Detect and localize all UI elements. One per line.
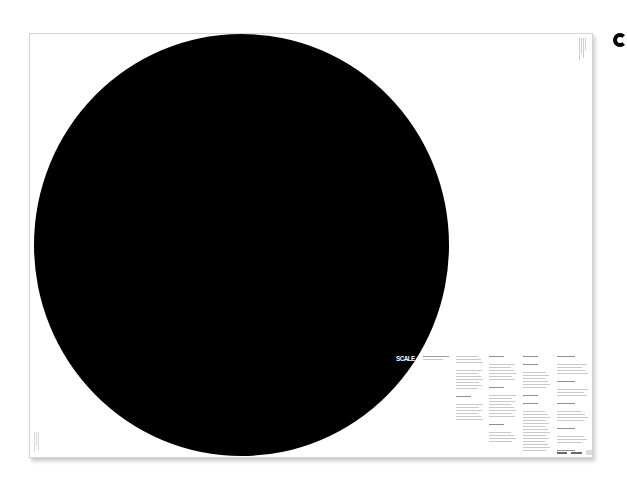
text-heading bbox=[489, 424, 504, 425]
text-line bbox=[423, 359, 443, 360]
text-line bbox=[456, 388, 478, 389]
text-line bbox=[523, 384, 550, 385]
text-line bbox=[557, 417, 588, 418]
text-line bbox=[489, 407, 514, 408]
text-line bbox=[557, 373, 588, 374]
text-line bbox=[523, 438, 549, 439]
text-line bbox=[489, 364, 515, 365]
text-heading bbox=[523, 356, 538, 357]
vertical-caption-bottom bbox=[34, 432, 40, 454]
text-column bbox=[523, 356, 551, 458]
poster-title: SCALE bbox=[396, 354, 415, 363]
text-column bbox=[456, 356, 484, 427]
text-line bbox=[523, 414, 548, 415]
text-line bbox=[523, 429, 548, 430]
next-poster-edge-icon bbox=[613, 33, 627, 47]
text-line bbox=[557, 364, 587, 365]
text-heading bbox=[523, 364, 538, 365]
text-line bbox=[557, 436, 584, 437]
text-line bbox=[456, 376, 481, 377]
text-heading bbox=[557, 428, 575, 429]
text-line bbox=[523, 375, 549, 376]
black-circle bbox=[34, 34, 449, 456]
text-line bbox=[523, 420, 546, 421]
text-line bbox=[523, 426, 545, 427]
text-line bbox=[489, 395, 516, 396]
text-line bbox=[523, 417, 550, 418]
text-line bbox=[557, 414, 585, 415]
text-line bbox=[423, 356, 449, 357]
text-line bbox=[489, 416, 515, 417]
text-line bbox=[489, 376, 512, 377]
text-line bbox=[523, 372, 546, 373]
text-line bbox=[489, 379, 515, 380]
text-line bbox=[557, 439, 587, 440]
text-line bbox=[523, 378, 545, 379]
text-heading bbox=[557, 381, 575, 382]
text-line bbox=[456, 419, 483, 420]
text-line bbox=[523, 432, 550, 433]
text-line bbox=[456, 385, 482, 386]
text-line bbox=[489, 438, 516, 439]
text-line bbox=[456, 404, 483, 405]
text-line bbox=[489, 398, 512, 399]
text-line bbox=[523, 411, 545, 412]
text-line bbox=[557, 370, 585, 371]
text-line bbox=[489, 410, 516, 411]
text-line bbox=[523, 444, 548, 445]
text-line bbox=[456, 359, 481, 360]
text-line bbox=[557, 411, 582, 412]
text-line bbox=[557, 442, 582, 443]
text-heading bbox=[557, 356, 575, 357]
text-line bbox=[489, 373, 516, 374]
text-line bbox=[456, 356, 478, 357]
text-column bbox=[557, 356, 589, 458]
text-line bbox=[523, 435, 546, 436]
footer-mark bbox=[557, 452, 567, 454]
text-heading bbox=[523, 403, 538, 404]
text-line bbox=[456, 382, 479, 383]
text-heading bbox=[489, 387, 504, 388]
text-heading bbox=[523, 395, 538, 396]
text-line bbox=[557, 420, 584, 421]
footer-logo-box bbox=[586, 450, 592, 455]
poster: SCALE bbox=[29, 33, 593, 458]
text-line bbox=[456, 413, 478, 414]
text-line bbox=[456, 373, 478, 374]
text-line bbox=[456, 362, 483, 363]
text-heading bbox=[456, 396, 471, 397]
vertical-caption-top bbox=[579, 38, 587, 62]
poster-footer bbox=[557, 450, 592, 455]
text-line bbox=[489, 370, 514, 371]
text-column bbox=[489, 356, 517, 449]
text-line bbox=[489, 435, 514, 436]
footer-mark bbox=[571, 452, 582, 454]
text-line bbox=[456, 407, 479, 408]
text-line bbox=[557, 367, 582, 368]
text-line bbox=[456, 410, 482, 411]
text-line bbox=[523, 447, 550, 448]
text-line bbox=[523, 423, 549, 424]
text-line bbox=[523, 387, 546, 388]
text-line bbox=[456, 379, 483, 380]
text-line bbox=[489, 432, 511, 433]
text-line bbox=[489, 441, 512, 442]
text-line bbox=[557, 392, 584, 393]
text-heading bbox=[557, 403, 575, 404]
text-line bbox=[489, 413, 512, 414]
text-line bbox=[557, 389, 588, 390]
text-line bbox=[456, 370, 482, 371]
text-line bbox=[523, 441, 545, 442]
text-line bbox=[523, 381, 548, 382]
text-line bbox=[489, 367, 511, 368]
text-heading bbox=[489, 356, 504, 357]
text-line bbox=[489, 404, 511, 405]
text-line bbox=[489, 401, 515, 402]
text-line bbox=[456, 416, 481, 417]
text-line bbox=[557, 395, 587, 396]
intro-text bbox=[423, 356, 449, 362]
text-line bbox=[523, 450, 546, 451]
